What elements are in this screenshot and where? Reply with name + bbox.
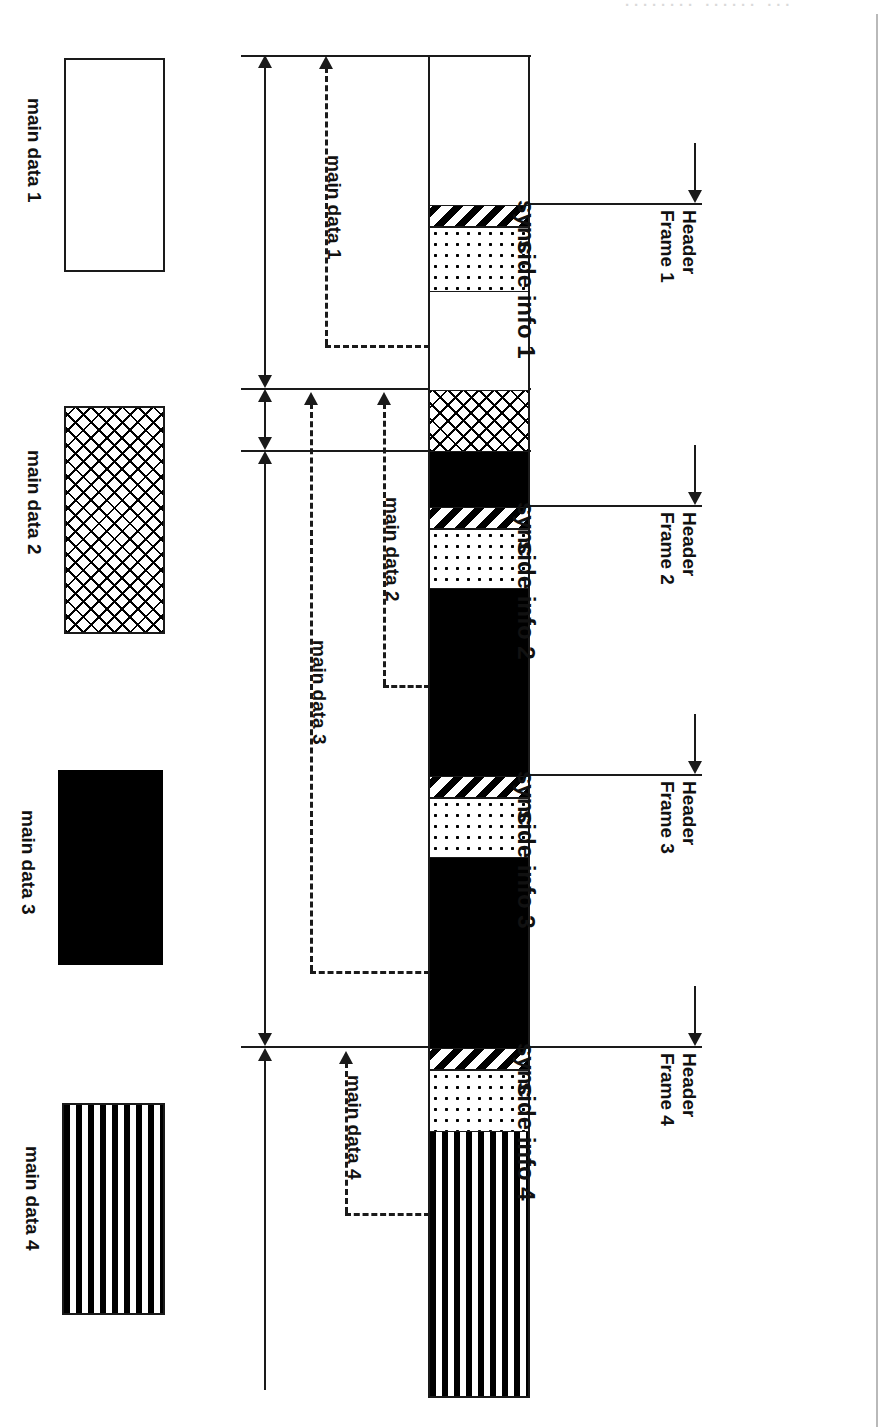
header-arrow-shaft-frame-1 bbox=[694, 143, 696, 191]
side-info-label-frame-2: side info 2 bbox=[512, 541, 540, 660]
header-label-frame-1-line1: Header bbox=[678, 210, 700, 274]
main-data-3-span-elbow bbox=[310, 971, 430, 974]
header-arrow-head-frame-1 bbox=[688, 190, 702, 203]
header-arrow-shaft-frame-2 bbox=[694, 445, 696, 493]
diagram-canvas: ········ ······ ··· main data 1 main dat… bbox=[0, 0, 884, 1427]
legend-label-main-data-2: main data 2 bbox=[23, 450, 45, 555]
header-arrow-head-frame-4 bbox=[688, 1033, 702, 1046]
bitstream-segment-main-data-1-head bbox=[430, 57, 528, 205]
frame4-tail-arrow-top bbox=[258, 1048, 272, 1061]
bitstream-segment-main-data-2 bbox=[430, 390, 528, 452]
frame1-span-arrow-top bbox=[258, 55, 272, 68]
side-info-label-frame-4: side info 4 bbox=[512, 1082, 540, 1201]
main-data-2-span-label: main data 2 bbox=[381, 497, 403, 602]
legend-swatch-main-data-4 bbox=[62, 1103, 165, 1315]
frames234-span-arrow-top bbox=[258, 451, 272, 464]
frames234-span-line bbox=[264, 455, 266, 1043]
header-rule-frame-2 bbox=[530, 505, 702, 507]
header-rule-frame-1 bbox=[530, 203, 702, 205]
header-label-frame-3-line1: Header bbox=[678, 781, 700, 845]
reservoir-gap-arrow-top bbox=[258, 389, 272, 402]
legend-swatch-main-data-1 bbox=[64, 58, 165, 272]
frame1-span-line bbox=[264, 60, 266, 386]
main-data-1-span-label: main data 1 bbox=[323, 155, 345, 260]
header-label-frame-1-line2: Frame 1 bbox=[656, 210, 678, 283]
bitstream-segment-main-data-3-head bbox=[430, 452, 528, 507]
side-info-label-frame-1: side info 1 bbox=[512, 240, 540, 359]
header-arrow-head-frame-3 bbox=[688, 761, 702, 774]
header-rule-frame-3 bbox=[530, 774, 702, 776]
side-info-label-frame-3: side info 3 bbox=[512, 810, 540, 929]
legend-swatch-main-data-3 bbox=[58, 770, 163, 965]
frame4-tail-line bbox=[264, 1050, 266, 1390]
header-arrow-shaft-frame-3 bbox=[694, 714, 696, 762]
main-data-3-span-label: main data 3 bbox=[308, 640, 330, 745]
main-data-4-span-label: main data 4 bbox=[343, 1075, 365, 1180]
legend-label-main-data-1: main data 1 bbox=[23, 98, 45, 203]
header-rule-frame-4 bbox=[530, 1046, 702, 1048]
main-data-4-span-elbow bbox=[345, 1213, 430, 1216]
header-label-frame-2-line2: Frame 2 bbox=[656, 512, 678, 585]
frame1-span-arrow-bottom bbox=[258, 375, 272, 388]
header-label-frame-4-line1: Header bbox=[678, 1053, 700, 1117]
legend-label-main-data-4: main data 4 bbox=[21, 1146, 43, 1251]
frames234-span-arrow-bottom bbox=[258, 1033, 272, 1046]
page-binding-edge bbox=[876, 14, 878, 1427]
header-label-frame-3-line2: Frame 3 bbox=[656, 781, 678, 854]
main-data-2-span-elbow bbox=[383, 685, 430, 688]
reservoir-gap-arrow-bottom bbox=[258, 437, 272, 450]
header-arrow-shaft-frame-4 bbox=[694, 986, 696, 1034]
header-label-frame-2-line1: Header bbox=[678, 512, 700, 576]
cropped-page-header-text: ········ ······ ··· bbox=[625, 0, 794, 13]
header-arrow-head-frame-2 bbox=[688, 492, 702, 505]
header-label-frame-4-line2: Frame 4 bbox=[656, 1053, 678, 1126]
legend-label-main-data-3: main data 3 bbox=[17, 810, 39, 915]
main-data-1-span-elbow bbox=[325, 345, 430, 348]
legend-swatch-main-data-2 bbox=[64, 406, 165, 634]
